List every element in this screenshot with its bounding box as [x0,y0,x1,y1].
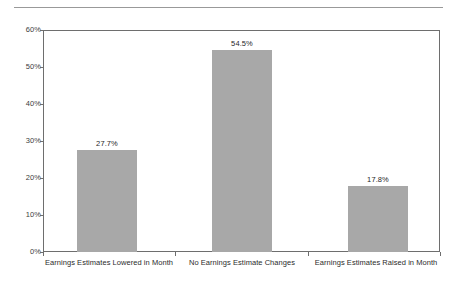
bar-value-label: 27.7% [77,139,137,148]
bar-value-label: 17.8% [348,175,408,184]
y-axis-tick-mark [40,30,43,31]
y-axis-tick-mark [40,178,43,179]
bar-value-label: 54.5% [212,39,272,48]
y-axis-tick-mark [40,141,43,142]
x-axis-tick-mark [308,252,309,256]
x-axis-tick-mark [175,252,176,256]
x-axis-tick-mark [440,252,441,256]
y-axis-tick-label: 40% [5,100,41,108]
y-axis-tick-label: 30% [5,137,41,145]
y-axis-tick-mark [40,104,43,105]
y-axis-tick-4: 20% [0,174,41,182]
y-axis-tick-5: 10% [0,211,41,219]
bar-series-item [77,150,137,252]
x-axis-category-label: Earnings Estimates Raised in Month [305,258,447,268]
y-axis-tick-label: 0% [5,248,41,256]
y-axis-tick-label: 60% [5,26,41,34]
y-axis-tick-mark [40,215,43,216]
y-axis-tick-mark [40,67,43,68]
y-axis-tick-label: 20% [5,174,41,182]
x-axis-tick-mark [43,252,44,256]
x-axis-category-label: Earnings Estimates Lowered in Month [36,258,182,268]
chart-page: 60% 50% 40% 30% 20% 10% 0% [0,0,457,285]
x-axis-category-label: No Earnings Estimate Changes [172,258,312,268]
y-axis-tick-6: 0% [0,248,41,256]
y-axis-tick-label: 50% [5,63,41,71]
bar-chart: 60% 50% 40% 30% 20% 10% 0% [0,0,457,285]
y-axis-tick-3: 30% [0,137,41,145]
y-axis-tick-2: 40% [0,100,41,108]
bar-series-item [348,186,408,252]
bar-series-item [212,50,272,252]
y-axis-tick-label: 10% [5,211,41,219]
y-axis-tick-0: 60% [0,26,41,34]
y-axis-tick-1: 50% [0,63,41,71]
